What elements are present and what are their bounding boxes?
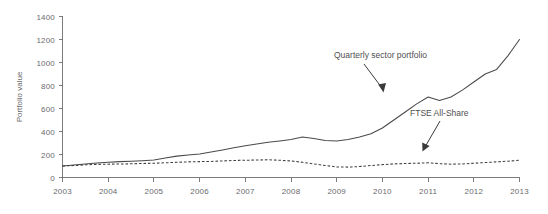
- chart-container: 1400 1200 1000 800 600 400 200 0 Portfol…: [0, 0, 548, 214]
- x-tick-label: 2006: [190, 187, 209, 196]
- x-tick-label: 2012: [464, 187, 483, 196]
- x-tick-label: 2009: [327, 187, 346, 196]
- line-chart: 1400 1200 1000 800 600 400 200 0 Portfol…: [0, 0, 548, 214]
- y-tick-label: 1000: [36, 59, 55, 68]
- annotation-arrow-head: [422, 143, 429, 152]
- y-tick-label: 1400: [36, 13, 55, 22]
- y-tick-label: 200: [41, 151, 55, 160]
- x-tick-label: 2010: [373, 187, 392, 196]
- series-line-quarterly-sector-portfolio: [63, 40, 520, 167]
- x-tick-label: 2011: [419, 187, 437, 196]
- y-tick-label: 600: [41, 105, 55, 114]
- y-tick-label: 0: [50, 174, 55, 183]
- annotation-quarterly-sector-portfolio: Quarterly sector portfolio: [334, 50, 427, 93]
- x-tick-label: 2008: [282, 187, 301, 196]
- annotation-label: Quarterly sector portfolio: [334, 50, 427, 60]
- x-tick-label: 2013: [510, 187, 529, 196]
- y-tick-marks: [59, 17, 63, 178]
- x-tick-label: 2003: [53, 187, 72, 196]
- y-tick-label: 800: [41, 82, 55, 91]
- annotation-ftse-all-share: FTSE All-Share: [410, 108, 469, 152]
- y-axis-title: Portfolio value: [15, 71, 24, 122]
- y-tick-label: 400: [41, 128, 55, 137]
- annotation-arrow-head: [378, 83, 386, 93]
- y-axis-tick-labels: 1400 1200 1000 800 600 400 200 0: [36, 13, 55, 183]
- annotation-label: FTSE All-Share: [410, 108, 469, 118]
- x-tick-marks: [63, 178, 520, 182]
- x-tick-label: 2005: [145, 187, 164, 196]
- x-axis-tick-labels: 2003 2004 2005 2006 2007 2008 2009 2010 …: [53, 187, 529, 196]
- x-tick-label: 2004: [99, 187, 118, 196]
- y-tick-label: 1200: [36, 36, 55, 45]
- annotation-arrow-line: [425, 121, 440, 147]
- x-tick-label: 2007: [236, 187, 255, 196]
